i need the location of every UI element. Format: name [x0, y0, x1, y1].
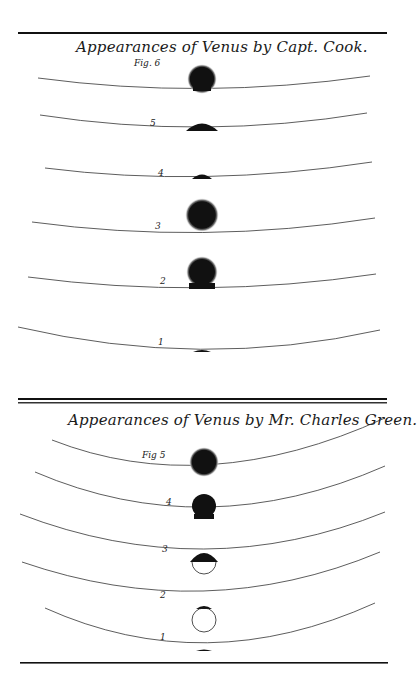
- venus-disc-fig5: [186, 124, 218, 132]
- figure-label-cook-6: Fig. 6: [134, 58, 160, 68]
- figure-label-cook-1: 1: [158, 337, 164, 347]
- figure-label-cook-5: 5: [150, 118, 156, 128]
- venus-disc-fig3: [185, 198, 219, 232]
- section-title-cook: Appearances of Venus by Capt. Cook.: [76, 38, 368, 56]
- limb-fig1: [18, 327, 380, 349]
- venus-disc-fig1: [193, 350, 211, 352]
- venus-disc-fig5: [189, 447, 219, 477]
- divider-rule-1: [18, 398, 387, 400]
- top-rule: [18, 32, 387, 34]
- cook-venus-discs: [185, 64, 219, 352]
- figure-label-green-3: 3: [162, 544, 168, 554]
- figure-label-green-4: 4: [166, 497, 172, 507]
- venus-disc-fig3: [190, 553, 218, 562]
- figure-label-cook-2: 2: [160, 276, 166, 286]
- limb-fig4: [45, 162, 372, 177]
- divider-rule-2: [18, 402, 387, 404]
- venus-disc-fig4: [192, 175, 212, 180]
- figure-label-green-1: 1: [160, 632, 166, 642]
- figure-label-green-5: Fig 5: [142, 450, 165, 460]
- venus-disc-fig2: [196, 606, 212, 609]
- figure-label-cook-3: 3: [155, 221, 161, 231]
- venus-disc-fig1: [196, 650, 212, 652]
- figure-label-cook-4: 4: [158, 168, 164, 178]
- bottom-rule: [20, 662, 388, 664]
- section-title-green: Appearances of Venus by Mr. Charles Gree…: [68, 411, 417, 429]
- figure-label-green-2: 2: [160, 590, 166, 600]
